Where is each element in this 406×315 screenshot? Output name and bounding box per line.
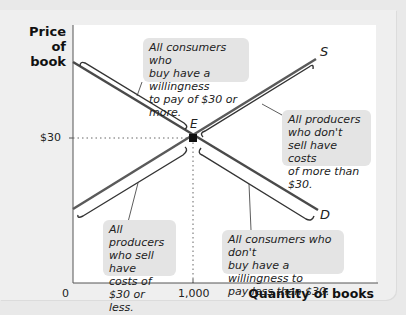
callout-line: who don't xyxy=(288,126,365,139)
callout-line: who sell have xyxy=(109,249,170,275)
equilibrium-point xyxy=(189,134,197,142)
y-axis-label-line2: book xyxy=(14,54,66,69)
x-tick-label: 1,000 xyxy=(178,287,210,300)
callout-line: All consumers who xyxy=(149,41,243,67)
callout-line: All producers xyxy=(109,223,170,249)
leader-consumers-buy xyxy=(137,82,142,96)
leader-consumers-not-buy xyxy=(249,184,251,230)
callout-line: buy have a willingness to xyxy=(228,259,338,285)
callout-producers-sell: All producers who sell have costs of $30… xyxy=(103,220,176,276)
callout-line: of more than $30. xyxy=(288,165,365,191)
callout-line: All producers xyxy=(288,113,365,126)
callout-producers-not-sell: All producers who don't sell have costs … xyxy=(282,110,371,166)
y-axis-label: Price of book xyxy=(14,24,66,69)
supply-label: S xyxy=(320,44,328,59)
leader-producers-sell xyxy=(128,183,138,222)
equilibrium-label: E xyxy=(190,117,198,131)
demand-label: D xyxy=(320,207,330,222)
callout-line: to pay of $30 or more. xyxy=(149,93,243,119)
origin-label: 0 xyxy=(62,287,69,300)
callout-line: less. xyxy=(109,301,170,314)
callout-line: All consumers who don't xyxy=(228,233,338,259)
callout-line: sell have costs xyxy=(288,139,365,165)
callout-consumers-buy: All consumers who buy have a willingness… xyxy=(143,38,249,82)
leader-producers-not-sell xyxy=(262,104,282,115)
y-axis-label-line1: Price of xyxy=(14,24,66,54)
y-tick-label: $30 xyxy=(40,131,61,144)
callout-line: costs of $30 or xyxy=(109,275,170,301)
callout-line: pay less than $30. xyxy=(228,285,338,298)
callout-line: buy have a willingness xyxy=(149,67,243,93)
callout-consumers-not-buy: All consumers who don't buy have a willi… xyxy=(222,230,344,274)
